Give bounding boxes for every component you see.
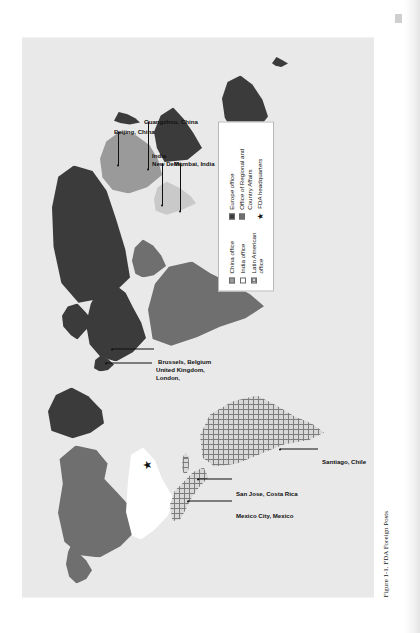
marker-brussels — [111, 348, 113, 350]
marker-mumbai — [179, 210, 181, 212]
legend-swatch-office-regional-country-affairs — [239, 213, 245, 219]
legend-column-1: China office India office Latin American… — [224, 229, 268, 283]
marker-santiago — [279, 448, 281, 450]
marker-guangzhou — [147, 168, 149, 170]
legend-swatch-china-office — [229, 277, 235, 283]
leader-line-san-jose — [198, 478, 232, 479]
marker-mexico-city — [187, 500, 189, 502]
legend-swatch-europe-office — [229, 213, 235, 219]
marker-new-delhi — [161, 204, 163, 206]
label-mexico-city: Mexico City, Mexico — [236, 511, 293, 518]
legend-label-china-office: China office — [228, 240, 235, 273]
label-guangzhou: Guangzhou, China — [144, 117, 198, 124]
legend-item-india-office: India office — [239, 229, 246, 283]
figure-caption: Figure 1-1. FDA Foreign Posts — [382, 510, 390, 597]
legend-item-office-regional-country-affairs: Office of Regional and Country Affairs — [238, 129, 252, 219]
legend-item-fda-headquarters: ★ FDA headquarters — [256, 129, 264, 219]
label-london-line1: London, — [156, 373, 180, 380]
label-london-line2: United Kingdom, — [156, 365, 205, 372]
legend-label-fda-headquarters: FDA headquarters — [256, 158, 263, 208]
marker-london — [105, 362, 107, 364]
legend-label-europe-office: Europe office — [228, 173, 235, 209]
label-san-jose: San Jose, Costa Rica — [236, 489, 298, 496]
legend-item-china-office: China office — [228, 229, 235, 283]
label-brussels: Brussels, Belgium — [158, 357, 211, 364]
leader-line-santiago — [280, 448, 318, 449]
legend-column-2: Europe office Office of Regional and Cou… — [224, 129, 268, 219]
legend-label-office-regional-country-affairs: Office of Regional and Country Affairs — [238, 129, 252, 209]
marker-san-jose — [197, 478, 199, 480]
leader-line-guangzhou — [148, 121, 149, 169]
label-mumbai: Mumbai, India — [174, 159, 215, 166]
leader-line-mexico-city — [188, 500, 232, 501]
legend-label-india-office: India office — [239, 243, 246, 273]
scan-edge-shadow — [404, 0, 420, 633]
legend-swatch-fda-headquarters-star-icon: ★ — [257, 212, 264, 219]
legend-item-latin-american-office: Latin American office — [250, 229, 264, 283]
fda-headquarters-star-icon: ★ — [142, 459, 153, 469]
legend-swatch-latin-american-office — [251, 277, 257, 283]
leader-line-beijing — [118, 131, 119, 165]
landmass-caribbean — [182, 453, 189, 473]
figure-page: Beijing, China Guangzhou, China New Delh… — [0, 0, 420, 633]
legend-item-europe-office: Europe office — [228, 129, 235, 219]
leader-line-new-delhi — [162, 163, 163, 205]
label-santiago: Santiago, Chile — [322, 457, 366, 464]
leader-line-mumbai — [180, 163, 181, 211]
legend-label-latin-american-office: Latin American office — [250, 229, 264, 273]
leader-line-london — [106, 362, 152, 363]
map-legend: China office India office Latin American… — [218, 121, 274, 291]
marker-beijing — [117, 164, 119, 166]
world-map: Beijing, China Guangzhou, China New Delh… — [22, 37, 374, 597]
label-new-delhi-line2: India — [152, 151, 166, 158]
scan-corner-artifact — [395, 14, 402, 23]
leader-line-brussels — [112, 348, 154, 349]
rotated-figure-stage: Beijing, China Guangzhou, China New Delh… — [0, 0, 420, 633]
legend-swatch-india-office — [240, 277, 246, 283]
